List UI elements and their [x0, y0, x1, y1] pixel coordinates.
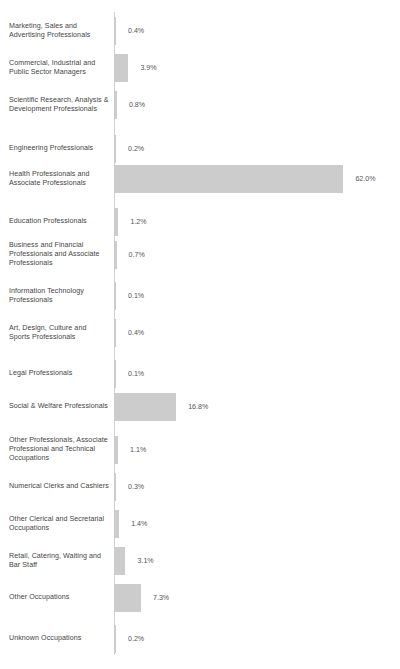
bar-row: Education Professionals1.2% — [0, 203, 400, 240]
bar-row: Legal Professionals0.1% — [0, 355, 400, 392]
category-label: Retail, Catering, Waiting and Bar Staff — [9, 551, 109, 570]
category-label: Health Professionals and Associate Profe… — [9, 169, 109, 188]
bar[interactable] — [114, 54, 128, 82]
bar-row: Other Occupations7.3% — [0, 579, 400, 616]
bar-row: Business and Financial Professionals and… — [0, 236, 400, 273]
bar-area: 1.1% — [114, 436, 146, 464]
bar-row: Commercial, Industrial and Public Sector… — [0, 49, 400, 86]
category-label: Other Occupations — [9, 593, 109, 602]
category-label: Business and Financial Professionals and… — [9, 240, 109, 268]
bar[interactable] — [114, 319, 116, 347]
bar-value-label: 1.1% — [130, 446, 146, 454]
bar-area: 0.3% — [114, 473, 144, 501]
bar[interactable] — [114, 241, 117, 269]
bar-row: Health Professionals and Associate Profe… — [0, 160, 400, 197]
bar[interactable] — [114, 282, 116, 310]
bar-row: Numerical Clerks and Cashiers0.3% — [0, 468, 400, 505]
bar-value-label: 62.0% — [355, 175, 375, 183]
bar-row: Scientific Research, Analysis & Developm… — [0, 86, 400, 123]
bar-area: 0.4% — [114, 17, 144, 45]
bar-value-label: 0.1% — [128, 370, 144, 378]
bar-value-label: 0.8% — [129, 101, 145, 109]
bar[interactable] — [114, 584, 141, 612]
category-label: Marketing, Sales and Advertising Profess… — [9, 21, 109, 40]
bar-row: Information Technology Professionals0.1% — [0, 277, 400, 314]
bar-row: Unknown Occupations0.2% — [0, 620, 400, 657]
category-label: Education Professionals — [9, 217, 109, 226]
category-label: Engineering Professionals — [9, 144, 109, 153]
category-label: Information Technology Professionals — [9, 286, 109, 305]
bar-value-label: 3.9% — [140, 64, 156, 72]
bar-area: 0.2% — [114, 625, 144, 653]
bar-row: Social & Welfare Professionals16.8% — [0, 388, 400, 425]
bar[interactable] — [114, 165, 343, 193]
bar-area: 0.4% — [114, 319, 144, 347]
bar-value-label: 0.4% — [128, 27, 144, 35]
bar-row: Marketing, Sales and Advertising Profess… — [0, 12, 400, 49]
bar[interactable] — [114, 393, 176, 421]
category-label: Social & Welfare Professionals — [9, 402, 109, 411]
category-label: Scientific Research, Analysis & Developm… — [9, 95, 109, 114]
bar-area: 1.4% — [114, 510, 147, 538]
bar-value-label: 0.1% — [128, 292, 144, 300]
bar[interactable] — [114, 91, 117, 119]
bar[interactable] — [114, 17, 116, 45]
bar[interactable] — [114, 510, 119, 538]
bar-value-label: 3.1% — [137, 557, 153, 565]
bar-area: 62.0% — [114, 165, 376, 193]
bar-row: Retail, Catering, Waiting and Bar Staff3… — [0, 542, 400, 579]
bar-value-label: 1.4% — [131, 520, 147, 528]
bar-value-label: 0.2% — [128, 635, 144, 643]
bar[interactable] — [114, 547, 125, 575]
bar[interactable] — [114, 625, 116, 653]
bar-row: Art, Design, Culture and Sports Professi… — [0, 314, 400, 351]
bar-area: 0.7% — [114, 241, 145, 269]
category-label: Legal Professionals — [9, 369, 109, 378]
bar-value-label: 16.8% — [188, 403, 208, 411]
bar-area: 1.2% — [114, 208, 147, 236]
bar-area: 0.8% — [114, 91, 145, 119]
bar-area: 16.8% — [114, 393, 208, 421]
bar-area: 0.1% — [114, 282, 144, 310]
bar-area: 3.1% — [114, 547, 154, 575]
bar[interactable] — [114, 135, 116, 163]
bar-area: 0.2% — [114, 135, 144, 163]
bar-row: Other Clerical and Secretarial Occupatio… — [0, 505, 400, 542]
bar[interactable] — [114, 436, 118, 464]
bar-value-label: 0.7% — [129, 251, 145, 259]
bar-area: 3.9% — [114, 54, 157, 82]
horizontal-bar-chart: Marketing, Sales and Advertising Profess… — [0, 0, 400, 669]
category-label: Numerical Clerks and Cashiers — [9, 482, 109, 491]
bar-value-label: 7.3% — [153, 594, 169, 602]
category-label: Unknown Occupations — [9, 634, 109, 643]
category-label: Other Clerical and Secretarial Occupatio… — [9, 514, 109, 533]
bar[interactable] — [114, 208, 118, 236]
bar-row: Other Professionals, Associate Professio… — [0, 431, 400, 468]
bar[interactable] — [114, 360, 116, 388]
bar-area: 0.1% — [114, 360, 144, 388]
bar[interactable] — [114, 473, 116, 501]
category-label: Commercial, Industrial and Public Sector… — [9, 58, 109, 77]
bar-value-label: 0.4% — [128, 329, 144, 337]
category-label: Other Professionals, Associate Professio… — [9, 435, 109, 463]
bar-area: 7.3% — [114, 584, 169, 612]
bar-value-label: 1.2% — [130, 218, 146, 226]
category-label: Art, Design, Culture and Sports Professi… — [9, 323, 109, 342]
bar-value-label: 0.3% — [128, 483, 144, 491]
bar-value-label: 0.2% — [128, 145, 144, 153]
